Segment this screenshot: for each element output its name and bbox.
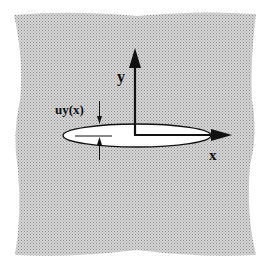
- y-axis-label: y: [117, 68, 125, 86]
- crack-diagram: y x uy(x): [0, 0, 274, 270]
- x-axis-label: x: [209, 147, 217, 163]
- displacement-label: uy(x): [55, 102, 84, 117]
